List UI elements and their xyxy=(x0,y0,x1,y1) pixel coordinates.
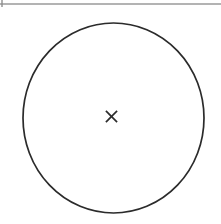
figure-svg xyxy=(0,0,221,224)
diagram-canvas: × xyxy=(0,0,221,224)
